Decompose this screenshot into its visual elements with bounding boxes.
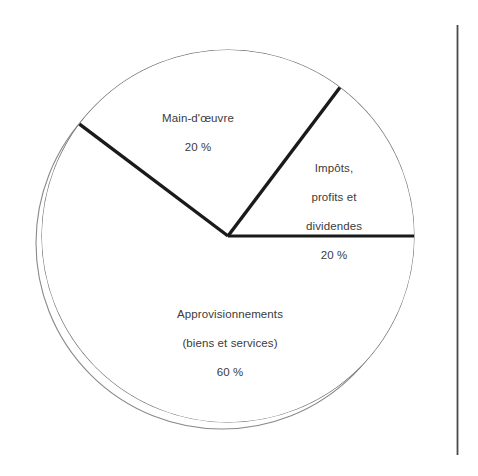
slice-label-main-doeuvre-line1: Main-d'œuvre xyxy=(110,111,286,126)
slice-label-main-doeuvre-value: 20 % xyxy=(110,140,286,155)
slice-label-approvisionnements: Approvisionnements (biens et services) 6… xyxy=(110,292,350,394)
slice-label-impots: Impôts, profits et dividendes 20 % xyxy=(268,146,400,277)
slice-label-impots-line2: profits et xyxy=(268,190,400,205)
slice-label-approvisionnements-line1: Approvisionnements xyxy=(110,307,350,322)
pie-chart-figure: Main-d'œuvre 20 % Impôts, profits et div… xyxy=(0,0,478,476)
slice-label-main-doeuvre: Main-d'œuvre 20 % xyxy=(110,96,286,169)
slice-label-impots-line3: dividendes xyxy=(268,219,400,234)
slice-label-impots-value: 20 % xyxy=(268,248,400,263)
slice-label-approvisionnements-value: 60 % xyxy=(110,365,350,380)
pie-chart-graphic xyxy=(0,0,478,476)
slice-label-approvisionnements-line2: (biens et services) xyxy=(110,336,350,351)
slice-label-impots-line1: Impôts, xyxy=(268,161,400,176)
